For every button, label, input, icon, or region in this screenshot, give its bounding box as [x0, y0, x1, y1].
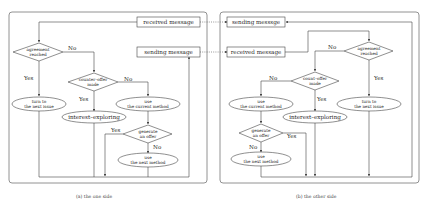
left-generate-yes: Yes	[110, 127, 121, 133]
right-generate-no: No	[249, 144, 258, 150]
right-sending-message-label: sending messsge	[232, 19, 281, 26]
left-sending-message-label: sending message	[144, 49, 193, 56]
left-generate-no: No	[153, 144, 162, 150]
left-interest-exploring-label: interest–exploring	[68, 114, 120, 121]
right-counter-yes: Yes	[316, 96, 327, 102]
right-counter-no: No	[269, 75, 278, 81]
right-turn-next-line2: the next issue	[354, 104, 384, 109]
right-flowchart: sending messsge received message agreeme…	[220, 12, 419, 199]
right-counter-line2: made	[309, 81, 321, 86]
left-received-message-label: received message	[143, 19, 194, 26]
negotiation-flowcharts: received message sending message agreeme…	[0, 0, 423, 207]
left-counter-yes: Yes	[78, 96, 89, 102]
left-agreement-line2: reached	[29, 52, 46, 57]
right-use-next-line2: the next method	[244, 159, 279, 164]
right-received-message-label: received message	[231, 49, 282, 56]
left-use-next-line2: the next method	[131, 160, 166, 165]
left-caption: (a) the one side	[76, 194, 112, 199]
right-caption: (b) the other side	[296, 194, 337, 199]
left-counter-no: No	[124, 76, 133, 82]
left-counter-offer-line2: made	[87, 82, 99, 87]
left-flowchart: received message sending message agreeme…	[9, 12, 225, 199]
right-generate-yes: Yes	[286, 133, 297, 139]
right-agreement-yes: Yes	[373, 75, 384, 81]
left-turn-next-issue-line2: the next issue	[24, 104, 54, 109]
left-use-current-line2: the current method	[127, 104, 169, 109]
right-agreement-no: No	[328, 44, 337, 50]
right-interest-exploring-label: interest–exploring	[289, 114, 341, 121]
left-generate-line2: an offer	[140, 134, 157, 139]
right-generate-line2: an offer	[253, 133, 270, 138]
left-agreement-no: No	[68, 45, 77, 51]
left-agreement-yes: Yes	[23, 75, 34, 81]
right-use-current-line2: the current method	[240, 104, 282, 109]
right-agreement-line2: reached	[360, 51, 377, 56]
